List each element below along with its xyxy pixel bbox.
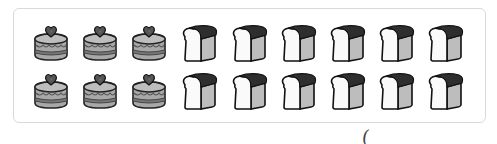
bread-icon bbox=[327, 23, 367, 63]
bread-icon bbox=[278, 23, 318, 63]
bread-icon bbox=[327, 71, 367, 111]
cake-icon bbox=[31, 23, 71, 63]
bread-icon bbox=[179, 71, 219, 111]
bread-icon bbox=[376, 71, 416, 111]
worksheet-frame bbox=[13, 8, 486, 123]
bread-icon bbox=[179, 23, 219, 63]
answer-parenthesis: ( bbox=[361, 128, 371, 144]
cake-icon bbox=[31, 71, 71, 111]
cake-icon bbox=[80, 71, 120, 111]
bread-icon bbox=[376, 23, 416, 63]
bread-icon bbox=[229, 71, 269, 111]
bread-icon bbox=[278, 71, 318, 111]
bread-icon bbox=[425, 23, 465, 63]
bread-icon bbox=[229, 23, 269, 63]
bread-icon bbox=[425, 71, 465, 111]
cake-icon bbox=[129, 23, 169, 63]
cake-icon bbox=[80, 23, 120, 63]
cake-icon bbox=[129, 71, 169, 111]
